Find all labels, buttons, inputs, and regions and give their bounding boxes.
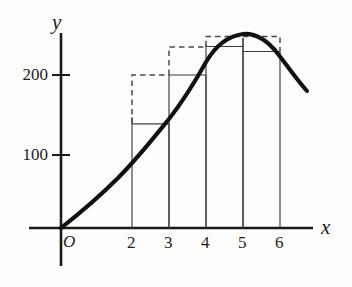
lower-rect-4-5: [206, 38, 243, 228]
y-tick-label-100: 100: [6, 146, 48, 163]
upper-rect-2-3: [132, 75, 169, 124]
x-tick-label-2: 2: [127, 234, 136, 251]
plot-canvas: [0, 0, 352, 287]
lower-rect-3-4: [169, 75, 206, 228]
y-tick-label-200: 200: [6, 66, 48, 83]
x-axis-label: x: [321, 217, 330, 238]
figure-container: y x O 200 100 2 3 4 5 6: [0, 0, 352, 287]
x-tick-label-5: 5: [238, 234, 247, 251]
function-curve: [61, 34, 307, 228]
origin-label: O: [63, 233, 75, 250]
lower-rectangles-group: [132, 38, 280, 228]
y-axis-label: y: [52, 12, 61, 33]
lower-rect-5-6: [243, 38, 280, 228]
x-tick-label-6: 6: [275, 234, 284, 251]
lower-rect-2-3: [132, 117, 169, 228]
x-tick-label-4: 4: [201, 234, 210, 251]
x-tick-label-3: 3: [164, 234, 173, 251]
